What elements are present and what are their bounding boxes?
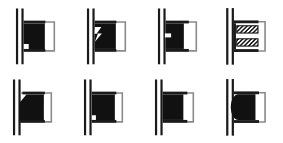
hatched-band-lower <box>237 39 258 46</box>
shaft-lines <box>16 8 24 64</box>
seal-profile-grid <box>0 0 283 143</box>
seal-body <box>231 94 256 120</box>
seal-body <box>24 23 45 49</box>
seal-profile-square-offset-drawing <box>71 73 142 143</box>
seal-profile-zigzag-lip-drawing <box>71 0 142 73</box>
hatched-band-upper <box>237 26 258 33</box>
seal-profile-square-plain-drawing <box>142 73 213 143</box>
seal-cell-6[interactable] <box>71 73 142 143</box>
seal-cell-5[interactable] <box>0 73 71 143</box>
seal-cell-1[interactable] <box>0 0 71 73</box>
seal-cell-7[interactable] <box>142 73 213 143</box>
seal-cell-3[interactable] <box>142 0 213 73</box>
seal-body-spring <box>237 26 258 46</box>
shaft-lines <box>154 79 162 135</box>
seal-cell-8[interactable] <box>212 73 283 143</box>
shaft-lines <box>226 8 234 65</box>
seal-profile-stepped-lip-drawing <box>0 0 71 73</box>
shaft-lines <box>84 79 92 135</box>
seal-profile-chamfered-drawing <box>0 73 71 143</box>
seal-profile-rounded-drawing <box>212 73 283 143</box>
seal-body <box>164 23 183 49</box>
horizontal-slot-icon <box>164 33 170 37</box>
seal-profile-hatched-spring-drawing <box>212 0 283 73</box>
seal-cell-2[interactable] <box>71 0 142 73</box>
seal-body <box>92 94 115 120</box>
seal-body <box>162 94 183 120</box>
seal-profile-slotted-lip-drawing <box>142 0 213 73</box>
seal-profile-figure <box>0 0 283 143</box>
shaft-lines <box>87 8 95 64</box>
housing-bracket <box>234 20 265 52</box>
seal-body <box>94 23 115 49</box>
shaft-lines <box>157 8 165 64</box>
seal-body <box>19 94 43 120</box>
seal-cell-4[interactable] <box>212 0 283 73</box>
